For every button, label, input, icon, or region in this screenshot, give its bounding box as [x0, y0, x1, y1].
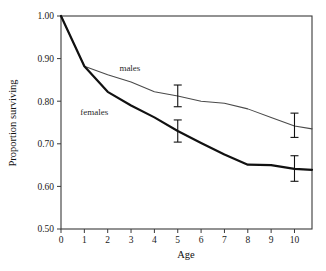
- y-axis-title: Proportion surviving: [7, 79, 18, 167]
- y-axis-tick-labels: 0.500.600.700.800.901.00: [37, 11, 54, 234]
- x-tick-label: 5: [175, 235, 180, 245]
- data-series-layer: [61, 16, 312, 170]
- annotation-females: females: [80, 107, 108, 117]
- chart-canvas: 0.500.600.700.800.901.00 012345678910 ma…: [0, 0, 326, 271]
- y-tick-label: 0.50: [37, 224, 54, 234]
- x-axis-title: Age: [177, 249, 195, 260]
- error-bar-females-x5: [174, 120, 182, 142]
- y-tick-label: 0.80: [37, 97, 54, 107]
- y-axis-ticks: [57, 16, 61, 229]
- y-tick-label: 0.90: [37, 54, 54, 64]
- x-axis-tick-labels: 012345678910: [59, 235, 300, 245]
- x-tick-label: 3: [129, 235, 134, 245]
- x-tick-label: 8: [245, 235, 250, 245]
- survival-curve-figure: 0.500.600.700.800.901.00 012345678910 ma…: [0, 0, 326, 271]
- x-tick-label: 2: [105, 235, 110, 245]
- annotation-males: males: [119, 63, 140, 73]
- x-axis-ticks: [61, 229, 294, 233]
- plot-frame: [61, 16, 312, 229]
- x-tick-label: 0: [59, 235, 64, 245]
- x-tick-label: 6: [199, 235, 204, 245]
- x-tick-label: 7: [222, 235, 227, 245]
- x-tick-label: 9: [269, 235, 274, 245]
- y-tick-label: 1.00: [37, 11, 54, 21]
- y-tick-label: 0.70: [37, 139, 54, 149]
- series-line-females: [61, 16, 312, 170]
- x-tick-label: 10: [290, 235, 300, 245]
- x-tick-label: 4: [152, 235, 157, 245]
- x-tick-label: 1: [82, 235, 87, 245]
- y-tick-label: 0.60: [37, 182, 54, 192]
